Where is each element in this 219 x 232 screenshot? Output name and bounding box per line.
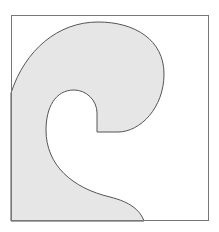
diagram-canvas (0, 0, 219, 232)
curl-shape (11, 22, 164, 221)
